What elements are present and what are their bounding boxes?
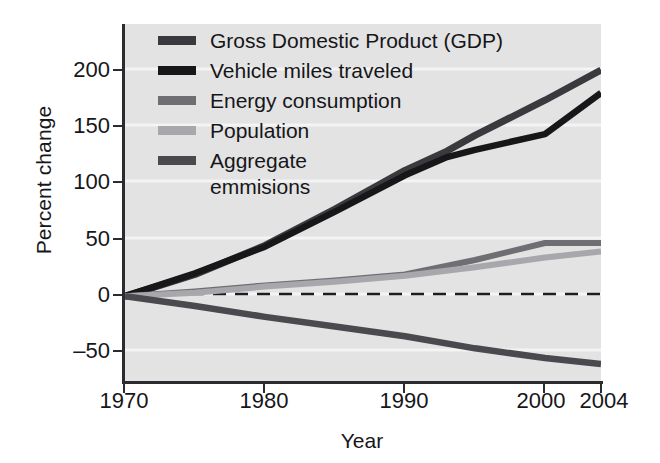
legend-color-swatch xyxy=(158,156,196,165)
legend-color-swatch xyxy=(158,126,196,135)
legend-color-swatch xyxy=(158,66,196,75)
legend-item-label: Energy consumption xyxy=(210,88,401,113)
x-axis-spine xyxy=(122,381,603,384)
legend-item[interactable]: Population xyxy=(158,118,578,144)
x-tick-label-2004: 2004 xyxy=(580,390,629,412)
x-tick-label-1990: 1990 xyxy=(380,390,429,412)
y-tick-label-minus50: –50 xyxy=(48,340,110,362)
x-tick-label-2000: 2000 xyxy=(517,390,566,412)
legend-item-label: Aggregate emmisions xyxy=(210,148,310,200)
legend-item[interactable]: Aggregate emmisions xyxy=(158,148,578,200)
legend-item-label: Vehicle miles traveled xyxy=(210,58,413,83)
chart-figure: Percent change 200 150 100 50 0 –50 xyxy=(0,0,660,463)
y-tick-label-0: 0 xyxy=(48,284,110,306)
y-tick-label-200: 200 xyxy=(48,59,110,81)
legend-item[interactable]: Energy consumption xyxy=(158,88,578,114)
x-tick-label-1970: 1970 xyxy=(100,390,149,412)
chart-legend: Gross Domestic Product (GDP)Vehicle mile… xyxy=(158,28,578,204)
legend-item-label: Population xyxy=(210,118,309,143)
legend-color-swatch xyxy=(158,36,196,45)
y-tick-label-150: 150 xyxy=(48,115,110,137)
y-tick-label-50: 50 xyxy=(48,228,110,250)
x-tick-label-1980: 1980 xyxy=(240,390,289,412)
legend-item[interactable]: Gross Domestic Product (GDP) xyxy=(158,28,578,54)
series-line xyxy=(125,296,601,364)
legend-item[interactable]: Vehicle miles traveled xyxy=(158,58,578,84)
y-axis-spine xyxy=(122,24,125,384)
legend-color-swatch xyxy=(158,96,196,105)
y-tick-label-100: 100 xyxy=(48,171,110,193)
legend-item-label: Gross Domestic Product (GDP) xyxy=(210,28,503,53)
x-axis-title: Year xyxy=(120,429,604,453)
